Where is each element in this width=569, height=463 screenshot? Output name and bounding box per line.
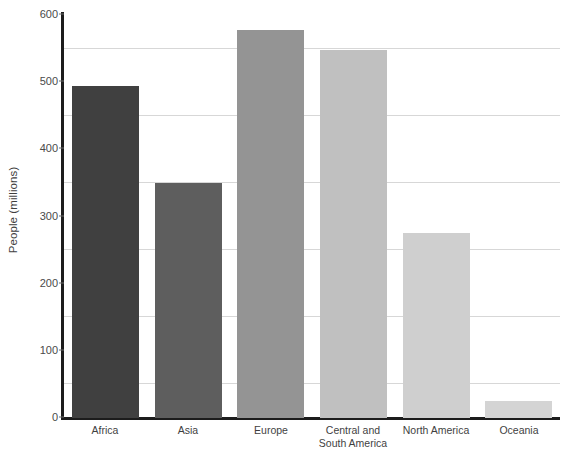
x-axis-tick-label: Oceania [464,424,569,437]
y-tick-label: 600 [22,8,58,20]
y-tick-label: 200 [22,277,58,289]
plot-area [64,14,560,418]
y-tick-label: 500 [22,75,58,87]
bar[interactable] [403,233,470,418]
bar[interactable] [155,183,222,418]
bar-chart: People (millions) 0100200300400500600 Af… [0,0,569,463]
x-axis-tick-label-line: Oceania [464,424,569,437]
y-axis-title-text: People (millions) [7,167,19,254]
bar[interactable] [485,401,552,418]
y-tick-label: 400 [22,142,58,154]
bar[interactable] [320,50,387,418]
x-axis-tick-label-line: South America [298,437,408,450]
y-tick-label: 300 [22,210,58,222]
bar[interactable] [237,30,304,418]
y-tick-label: 100 [22,344,58,356]
bar[interactable] [72,86,139,418]
y-tick-label: 0 [22,411,58,423]
